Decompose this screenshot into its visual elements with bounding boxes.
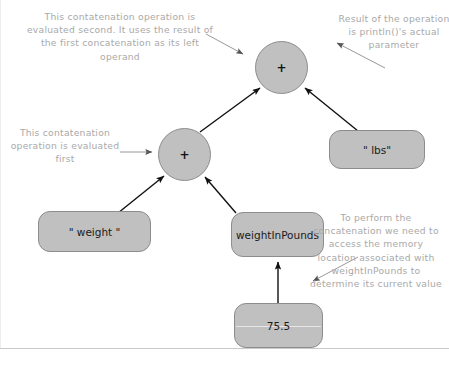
node-label: 75.5 [267,320,290,332]
edge-lbs-to-topplus [305,88,358,131]
frame-left-border [0,0,1,349]
edge-weight-to-midplus [118,176,164,213]
memory-cell-node-value[interactable]: 75.5 [234,303,323,348]
string-literal-node-lbs[interactable]: " lbs" [329,130,425,169]
operator-node-plus-mid[interactable]: + [158,128,211,181]
string-literal-node-weight[interactable]: " weight " [38,211,151,252]
frame-bottom-border [0,348,449,349]
operator-label: + [276,61,286,75]
operator-node-plus-top[interactable]: + [255,41,308,94]
diagram-canvas: + + " weight " " lbs" weightInPounds 75.… [0,0,449,370]
node-label: weightInPounds [236,229,319,241]
annotation-println-parameter: Result of the operation is println()'s a… [338,12,449,52]
node-label: " weight " [69,226,121,238]
edge-variable-to-midplus [205,177,236,213]
annotation-first-concatenation: This contatenation operation is evaluate… [4,126,126,166]
operator-label: + [179,148,189,162]
edge-midplus-to-topplus [200,88,260,132]
annotation-memory-access: To perform the concatenation we need to … [308,211,444,290]
annotation-second-concatenation: This contatenation operation is evaluate… [22,10,218,63]
node-label: " lbs" [363,144,391,156]
